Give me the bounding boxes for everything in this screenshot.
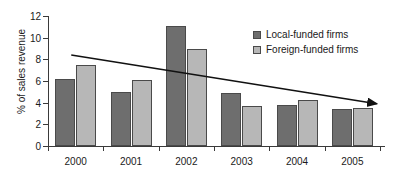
bar — [166, 26, 186, 146]
bar — [242, 106, 262, 146]
bar — [277, 105, 297, 146]
y-tick — [43, 38, 48, 39]
legend-item: Local-funded firms — [253, 28, 358, 41]
legend-item: Foreign-funded firms — [253, 43, 358, 56]
y-tick — [43, 103, 48, 104]
x-tick — [159, 146, 160, 151]
x-axis-line — [48, 146, 385, 147]
x-tick — [48, 146, 49, 151]
x-tick — [325, 146, 326, 151]
x-tick-label: 2004 — [286, 156, 308, 167]
y-tick-label: 2 — [35, 119, 41, 130]
bar — [55, 79, 75, 146]
legend-label: Foreign-funded firms — [266, 44, 358, 55]
bar — [76, 65, 96, 146]
y-tick-label: 0 — [35, 141, 41, 152]
x-tick — [103, 146, 104, 151]
y-axis-line — [48, 16, 49, 146]
x-tick-label: 2002 — [175, 156, 197, 167]
bar — [111, 92, 131, 146]
y-tick-label: 8 — [35, 54, 41, 65]
y-tick — [43, 124, 48, 125]
y-tick-label: 12 — [30, 11, 41, 22]
legend-swatch-icon — [253, 31, 261, 39]
bar — [332, 109, 352, 146]
x-tick-label: 2000 — [65, 156, 87, 167]
legend: Local-funded firms Foreign-funded firms — [253, 28, 358, 58]
y-axis-title: % of sales revenue — [16, 12, 27, 132]
bar — [187, 49, 207, 147]
x-tick — [269, 146, 270, 151]
x-tick-label: 2003 — [231, 156, 253, 167]
bar — [298, 100, 318, 146]
x-tick — [214, 146, 215, 151]
legend-swatch-icon — [253, 46, 261, 54]
bar — [132, 80, 152, 146]
y-tick — [43, 59, 48, 60]
y-tick-label: 10 — [30, 32, 41, 43]
x-tick — [380, 146, 381, 151]
x-tick-label: 2001 — [120, 156, 142, 167]
y-tick-label: 4 — [35, 97, 41, 108]
bar — [353, 108, 373, 146]
bar-chart: % of sales revenue 0 2 4 6 8 10 — [0, 0, 395, 182]
y-tick — [43, 16, 48, 17]
y-tick-label: 6 — [35, 76, 41, 87]
bar — [221, 93, 241, 146]
x-tick-label: 2005 — [341, 156, 363, 167]
y-tick — [43, 81, 48, 82]
legend-label: Local-funded firms — [266, 29, 348, 40]
